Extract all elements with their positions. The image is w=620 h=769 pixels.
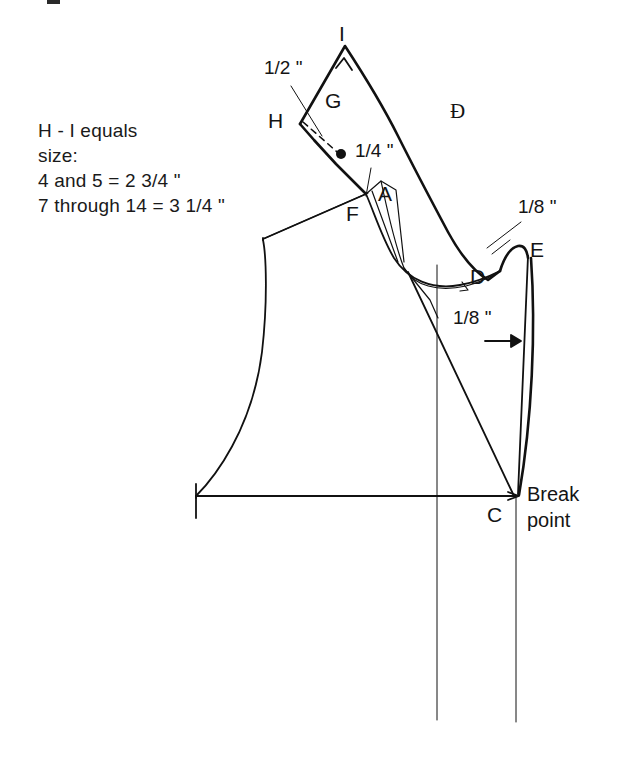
dimension-eighth-inch-top: 1/8 " (518, 196, 556, 218)
side-seam-curve (196, 240, 266, 496)
point-label-g: G (325, 89, 341, 113)
lapel-collar-outline (300, 46, 500, 280)
size-note-line-2: size: (38, 143, 78, 168)
dimension-eighth-inch-side: 1/8 " (453, 307, 491, 329)
crease-point-marker (336, 149, 346, 159)
break-point-label-line2: point (527, 507, 570, 533)
eighth-inch-side-arrow-head (511, 335, 521, 347)
size-note-line-4: 7 through 14 = 3 1/4 " (38, 193, 225, 218)
point-label-d-collar: Ð (450, 99, 465, 124)
pattern-drawing-canvas: H - I equals size: 4 and 5 = 2 3/4 " 7 t… (0, 0, 620, 769)
size-note-line-1: H - I equals (38, 118, 138, 143)
point-label-e: E (530, 238, 544, 262)
point-label-a: A (378, 182, 392, 206)
front-edge-top-curve (500, 246, 528, 271)
dimension-half-inch: 1/2 " (264, 57, 302, 79)
dimension-quarter-inch: 1/4 " (355, 140, 393, 162)
pattern-diagram (0, 0, 620, 769)
front-edge-straight (518, 256, 528, 494)
point-label-d: D (470, 265, 485, 289)
point-label-c: C (487, 503, 502, 527)
size-note-line-3: 4 and 5 = 2 3/4 " (38, 168, 181, 193)
point-label-i: I (339, 22, 345, 46)
break-point-label-line1: Break (527, 481, 579, 507)
registration-mark (47, 0, 60, 4)
point-label-f: F (346, 202, 359, 226)
break-line (408, 272, 514, 496)
point-label-h: H (268, 109, 283, 133)
